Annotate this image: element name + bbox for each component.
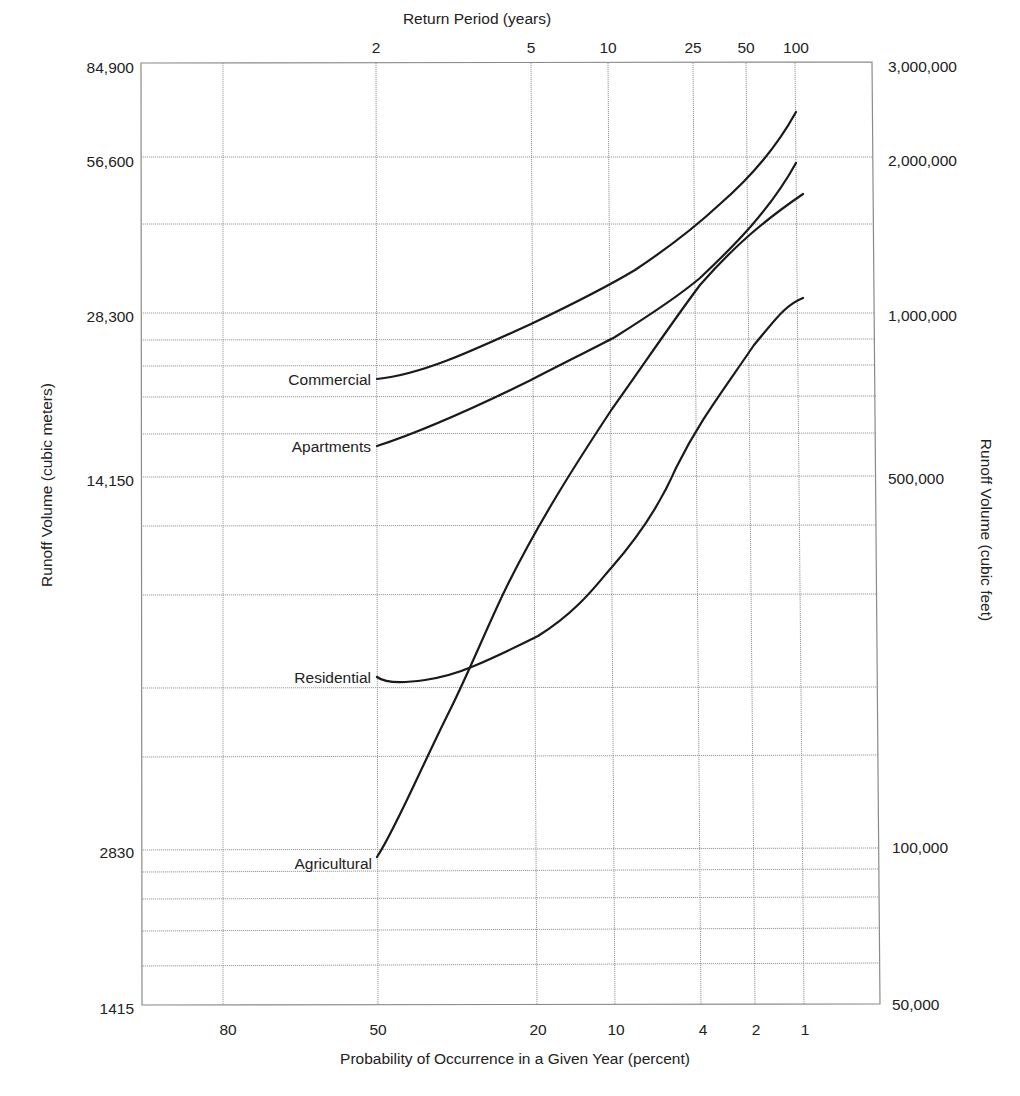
bottom-tick: 20 [529, 1021, 547, 1038]
right-tick: 2,000,000 [888, 152, 957, 169]
right-tick: 100,000 [892, 839, 948, 856]
bottom-tick: 4 [699, 1021, 708, 1038]
agricultural-label: Agricultural [294, 855, 372, 872]
top-tick: 100 [783, 39, 809, 56]
right-tick: 3,000,000 [888, 58, 957, 75]
top-tick: 2 [372, 39, 381, 56]
apartments-label: Apartments [292, 438, 372, 455]
left-tick: 2830 [100, 844, 135, 861]
top-tick: 10 [599, 39, 617, 56]
horizontal-grid [141, 157, 880, 966]
left-tick: 1415 [100, 1000, 134, 1017]
bottom-tick: 1 [801, 1021, 810, 1038]
residential-curve [377, 298, 803, 682]
right-tick: 50,000 [892, 996, 940, 1013]
bottom-tick: 10 [607, 1021, 625, 1038]
runoff-volume-chart: Commercial Apartments Residential Agricu… [0, 0, 1020, 1096]
commercial-label: Commercial [288, 371, 371, 388]
left-tick: 14,150 [87, 472, 135, 489]
bottom-axis-title: Probability of Occurrence in a Given Yea… [340, 1050, 690, 1067]
left-axis-title: Runoff Volume (cubic meters) [38, 383, 55, 587]
top-tick: 25 [684, 39, 701, 56]
top-tick: 5 [527, 39, 536, 56]
right-tick: 1,000,000 [888, 307, 957, 324]
right-tick: 500,000 [888, 470, 944, 487]
bottom-tick: 50 [369, 1021, 387, 1038]
bottom-tick: 2 [752, 1021, 761, 1038]
left-tick: 84,900 [87, 59, 135, 76]
left-tick: 28,300 [87, 308, 135, 325]
left-tick: 56,600 [87, 153, 135, 170]
bottom-tick: 80 [219, 1021, 237, 1038]
top-axis-title: Return Period (years) [403, 10, 551, 27]
residential-label: Residential [294, 669, 371, 686]
top-tick: 50 [737, 39, 755, 56]
right-axis-title: Runoff Volume (cubic feet) [978, 439, 995, 621]
apartments-curve [377, 163, 796, 446]
